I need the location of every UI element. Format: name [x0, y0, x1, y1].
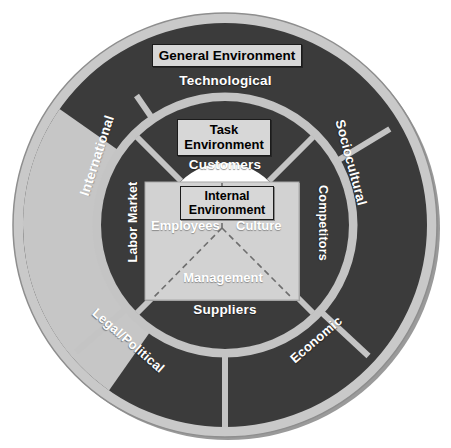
- environment-rings-svg: [0, 0, 451, 448]
- diagram-canvas: Technological Sociocultural Economic Leg…: [0, 0, 451, 448]
- internal-environment-box: [145, 182, 299, 300]
